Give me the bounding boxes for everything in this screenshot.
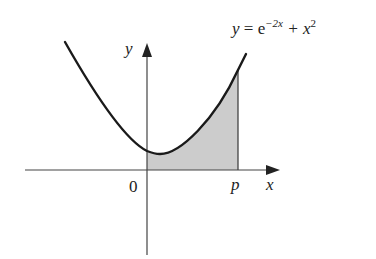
x-axis-label: x: [266, 176, 274, 193]
equation-exponent: −2x: [265, 17, 283, 29]
equation-plus-x: + x: [283, 19, 311, 38]
graph-diagram: y = e−2x + x2 y x 0 p: [0, 0, 376, 259]
equation-label: y = e−2x + x2: [232, 20, 316, 37]
origin-label: 0: [129, 178, 138, 195]
x-axis-arrow-icon: [266, 165, 280, 175]
p-label: p: [231, 176, 240, 193]
y-axis-label: y: [125, 40, 133, 57]
graph-svg: [0, 0, 376, 259]
equation-power: 2: [311, 17, 317, 29]
equation-e: = e: [240, 19, 266, 38]
equation-y: y: [232, 19, 240, 38]
y-axis-arrow-icon: [142, 43, 152, 57]
